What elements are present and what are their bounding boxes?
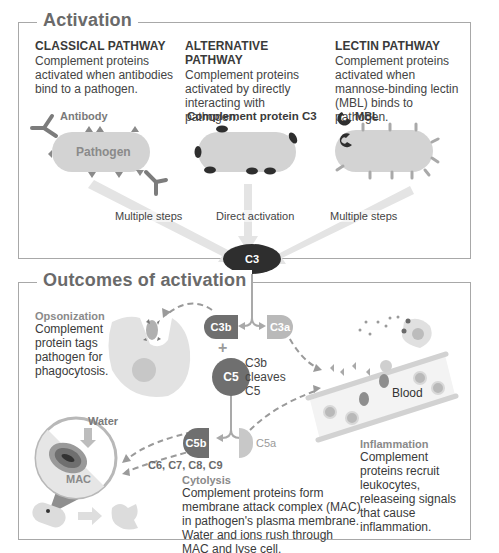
opsonization-block: Opsonization Complement protein tags pat… [35, 310, 105, 378]
pathogen-label: Pathogen [76, 145, 131, 159]
mac-components-label: C6, C7, C8, C9 [148, 459, 223, 471]
cytolysis-block: Cytolysis Complement proteins form membr… [182, 474, 362, 553]
opsonization-title: Opsonization [35, 310, 105, 322]
blood-label: Blood [392, 386, 423, 400]
c5b-label: C5b [186, 437, 207, 449]
opsonization-description: Complement protein tags pathogen for pha… [35, 322, 105, 378]
cleave-note: C3b cleaves C5 [245, 356, 285, 398]
plus-sign: + [218, 339, 227, 357]
antibody-label: Antibody [60, 110, 108, 122]
classical-pathway-description: Complement proteins activated when antib… [35, 54, 175, 96]
inflammation-title: Inflammation [360, 438, 470, 450]
c3a-fragment: C3a [267, 315, 293, 339]
complement-protein-c3-label: Complement protein C3 [187, 110, 317, 122]
c5-label: C5 [223, 370, 238, 384]
inflammation-block: Inflammation Complement proteins recruit… [360, 438, 470, 534]
c5a-label: C5a [256, 437, 276, 449]
c5b-fragment: C5b [183, 428, 209, 458]
inflammation-description: Complement proteins recruit leukocytes, … [360, 450, 470, 534]
mbl-label: MBL [355, 110, 379, 122]
classical-pathway-title: CLASSICAL PATHWAY [35, 39, 175, 53]
classical-pathway: CLASSICAL PATHWAY Complement proteins ac… [35, 39, 175, 96]
c3-label: C3 [245, 253, 259, 265]
alternative-arrow-label: Direct activation [216, 210, 294, 222]
c3a-label: C3a [270, 321, 290, 333]
c3b-fragment: C3b [204, 315, 238, 339]
cytolysis-title: Cytolysis [182, 474, 362, 486]
activation-title: Activation [37, 10, 138, 31]
c3b-label: C3b [211, 321, 232, 333]
alternative-pathway-title: ALTERNATIVE PATHWAY [185, 39, 320, 67]
water-label: Water [88, 415, 118, 427]
lectin-arrow-label: Multiple steps [330, 210, 397, 222]
outcomes-title: Outcomes of activation [37, 270, 252, 291]
lectin-pathway-title: LECTIN PATHWAY [335, 39, 465, 53]
cytolysis-description: Complement proteins form membrane attack… [182, 486, 362, 553]
mac-label: MAC [66, 473, 91, 485]
classical-arrow-label: Multiple steps [115, 210, 182, 222]
